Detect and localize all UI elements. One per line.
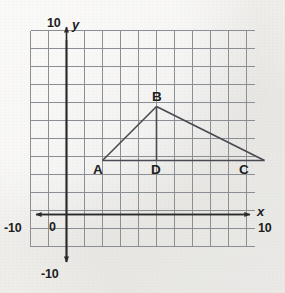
x-axis-label: x <box>257 205 264 218</box>
coordinate-plane-figure <box>0 0 285 293</box>
origin-label: 0 <box>49 221 56 234</box>
triangle-abc <box>103 107 265 161</box>
axis-lines <box>36 27 250 262</box>
vertex-label-d: D <box>151 163 161 177</box>
vertex-label-b: B <box>152 90 162 104</box>
y-axis-min-label: -10 <box>41 268 58 281</box>
segment-ab <box>103 107 157 161</box>
vertex-label-c: C <box>239 163 249 177</box>
y-axis-max-label: 10 <box>47 17 61 30</box>
y-axis-label: y <box>72 18 79 31</box>
x-axis-min-label: -10 <box>4 222 21 235</box>
vertex-label-a: A <box>93 163 103 177</box>
x-axis-max-label: 10 <box>258 222 272 235</box>
